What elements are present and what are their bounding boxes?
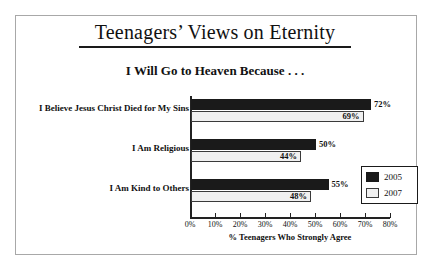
bar-value-label: 44% xyxy=(280,151,297,162)
bar-2005 xyxy=(191,179,329,190)
x-tick xyxy=(265,213,266,218)
x-tick-label: 70% xyxy=(358,220,373,229)
bar-value-label: 69% xyxy=(343,111,360,122)
x-tick xyxy=(290,213,291,218)
x-axis-title: % Teenagers Who Strongly Agree xyxy=(190,232,390,242)
x-tick xyxy=(365,213,366,218)
bar-value-label: 55% xyxy=(332,179,349,190)
x-tick xyxy=(190,213,191,218)
x-tick-label: 0% xyxy=(185,220,196,229)
x-tick xyxy=(340,213,341,218)
x-tick-label: 20% xyxy=(233,220,248,229)
category-label: I Believe Jesus Christ Died for My Sins xyxy=(39,103,189,113)
legend-label-2007: 2007 xyxy=(384,188,402,198)
x-tick xyxy=(315,213,316,218)
bar-2007 xyxy=(191,111,364,122)
chart-legend: 2005 2007 xyxy=(361,166,418,204)
legend-item-2005: 2005 xyxy=(366,170,402,184)
bar-value-label: 48% xyxy=(290,191,307,202)
bar-value-label: 72% xyxy=(374,99,391,110)
x-tick-label: 60% xyxy=(333,220,348,229)
x-tick xyxy=(390,213,391,218)
bar-value-label: 50% xyxy=(319,139,336,150)
light-swatch-icon xyxy=(366,188,379,198)
x-tick-label: 40% xyxy=(283,220,298,229)
chart-figure: Teenagers’ Views on Eternity I Will Go t… xyxy=(0,0,435,270)
black-swatch-icon xyxy=(366,172,379,182)
category-label: I Am Religious xyxy=(132,143,189,153)
legend-label-2005: 2005 xyxy=(384,172,402,182)
x-tick-label: 50% xyxy=(308,220,323,229)
x-tick-label: 30% xyxy=(258,220,273,229)
x-tick xyxy=(240,213,241,218)
bar-2005 xyxy=(191,139,316,150)
x-tick-label: 10% xyxy=(208,220,223,229)
bar-2005 xyxy=(191,99,371,110)
x-tick-label: 80% xyxy=(383,220,398,229)
x-tick xyxy=(215,213,216,218)
category-label: I Am Kind to Others xyxy=(109,183,189,193)
plot-area: 0%10%20%30%40%50%60%70%80% % Teenagers W… xyxy=(0,0,435,270)
legend-item-2007: 2007 xyxy=(366,186,402,200)
